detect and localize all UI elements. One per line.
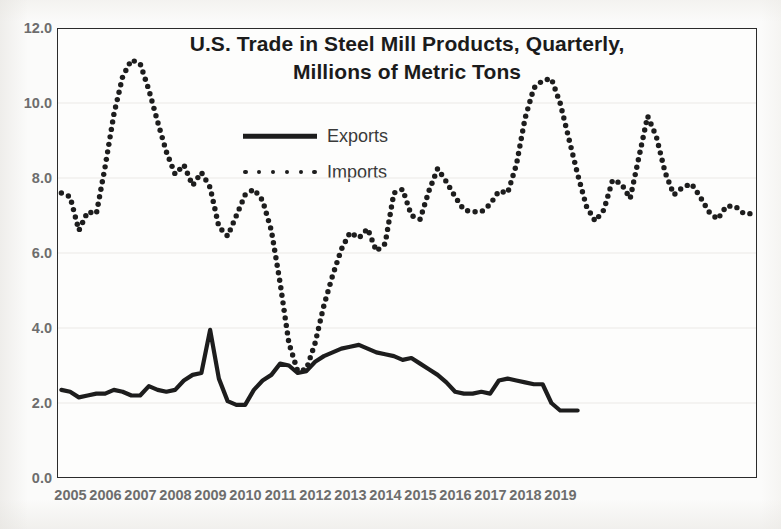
x-tick-label: 2007 bbox=[124, 487, 156, 503]
x-tick-label: 2012 bbox=[299, 487, 331, 503]
x-tick-label: 2006 bbox=[89, 487, 121, 503]
x-tick-label: 2005 bbox=[54, 487, 86, 503]
x-axis-tick-labels: 2005200620072008200920102011201220132014… bbox=[57, 487, 757, 511]
legend-solid-line-icon bbox=[243, 129, 317, 143]
y-tick-label: 6.0 bbox=[6, 245, 52, 261]
y-tick-label: 2.0 bbox=[6, 395, 52, 411]
x-tick-label: 2019 bbox=[544, 487, 576, 503]
legend-dot bbox=[257, 170, 262, 175]
chart-title-line-2: Millions of Metric Tons bbox=[57, 58, 757, 86]
legend-dotted-line-icon bbox=[243, 165, 317, 179]
legend-dot bbox=[271, 170, 276, 175]
chart-title-line-1: U.S. Trade in Steel Mill Products, Quart… bbox=[57, 30, 757, 58]
x-tick-label: 2010 bbox=[229, 487, 261, 503]
legend-item-imports[interactable]: Imports bbox=[243, 154, 473, 190]
chart-legend: Exports Imports bbox=[243, 118, 473, 190]
chart-title: U.S. Trade in Steel Mill Products, Quart… bbox=[57, 30, 757, 85]
y-axis-tick-labels: 12.010.08.06.04.02.00.0 bbox=[0, 0, 52, 529]
y-tick-label: 10.0 bbox=[6, 95, 52, 111]
x-tick-label: 2018 bbox=[509, 487, 541, 503]
legend-dot bbox=[243, 170, 248, 175]
x-tick-label: 2015 bbox=[404, 487, 436, 503]
x-tick-label: 2008 bbox=[159, 487, 191, 503]
x-tick-label: 2017 bbox=[474, 487, 506, 503]
legend-dot bbox=[285, 170, 290, 175]
y-tick-label: 4.0 bbox=[6, 320, 52, 336]
legend-dot bbox=[299, 170, 304, 175]
legend-label-exports: Exports bbox=[327, 126, 388, 147]
legend-dot bbox=[312, 170, 317, 175]
y-tick-label: 12.0 bbox=[6, 20, 52, 36]
plot-area-frame bbox=[57, 28, 757, 478]
x-tick-label: 2011 bbox=[265, 487, 296, 503]
x-tick-label: 2009 bbox=[194, 487, 226, 503]
y-tick-label: 0.0 bbox=[6, 470, 52, 486]
legend-item-exports[interactable]: Exports bbox=[243, 118, 473, 154]
y-tick-label: 8.0 bbox=[6, 170, 52, 186]
chart-screenshot: U.S. Trade in Steel Mill Products, Quart… bbox=[0, 0, 781, 529]
x-tick-label: 2016 bbox=[439, 487, 471, 503]
x-tick-label: 2014 bbox=[369, 487, 401, 503]
legend-label-imports: Imports bbox=[327, 162, 387, 183]
x-tick-label: 2013 bbox=[334, 487, 366, 503]
